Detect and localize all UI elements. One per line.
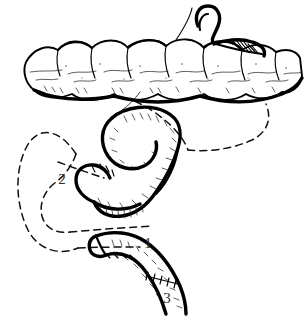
label-3: 3 [163, 290, 171, 306]
figure-canvas: 1 2 3 [0, 0, 308, 318]
transverse-colon [24, 39, 302, 102]
anatomical-figure: 1 2 3 [0, 0, 308, 318]
label-2: 2 [58, 171, 66, 187]
label-1: 1 [144, 235, 152, 251]
